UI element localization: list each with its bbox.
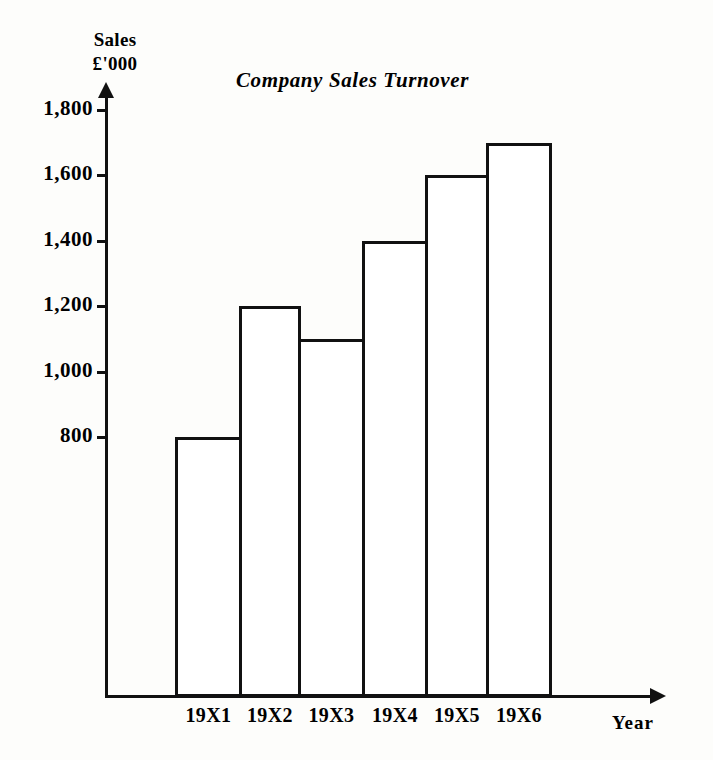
chart-title: Company Sales Turnover (236, 68, 469, 93)
y-axis-tick (97, 371, 107, 374)
bar-19X1 (175, 437, 242, 697)
y-axis-tick-label: 1,200 (21, 294, 93, 315)
y-axis-tick (97, 174, 107, 177)
bar-19X6 (486, 143, 552, 697)
y-axis-title-line-2: £'000 (60, 52, 170, 76)
x-axis-title: Year (612, 712, 654, 734)
y-axis-tick (97, 240, 107, 243)
y-axis-tick-label: 1,000 (21, 360, 93, 381)
y-axis-tick-label: 800 (21, 425, 93, 446)
y-axis-tick-label: 1,600 (21, 163, 93, 184)
y-axis-tick (97, 109, 107, 112)
y-axis-line (105, 92, 108, 698)
bar-19X2 (239, 306, 301, 697)
x-axis-arrow-icon (650, 688, 666, 704)
y-axis-title-line-1: Sales (94, 29, 137, 50)
bar-19X5 (425, 175, 489, 697)
y-axis-tick-label: 1,400 (21, 229, 93, 250)
x-axis-tick-label-19X6: 19X6 (478, 704, 560, 727)
y-axis-arrow-icon (98, 82, 114, 98)
y-axis-tick (97, 436, 107, 439)
bar-chart: Company Sales Turnover Sales £'000 Year … (0, 0, 713, 760)
y-axis-tick (97, 305, 107, 308)
y-axis-tick-label: 1,800 (21, 98, 93, 119)
bar-19X4 (362, 241, 428, 697)
y-axis-title: Sales £'000 (60, 28, 170, 77)
bar-19X3 (298, 339, 365, 697)
figure-canvas: Company Sales Turnover Sales £'000 Year … (0, 0, 713, 760)
